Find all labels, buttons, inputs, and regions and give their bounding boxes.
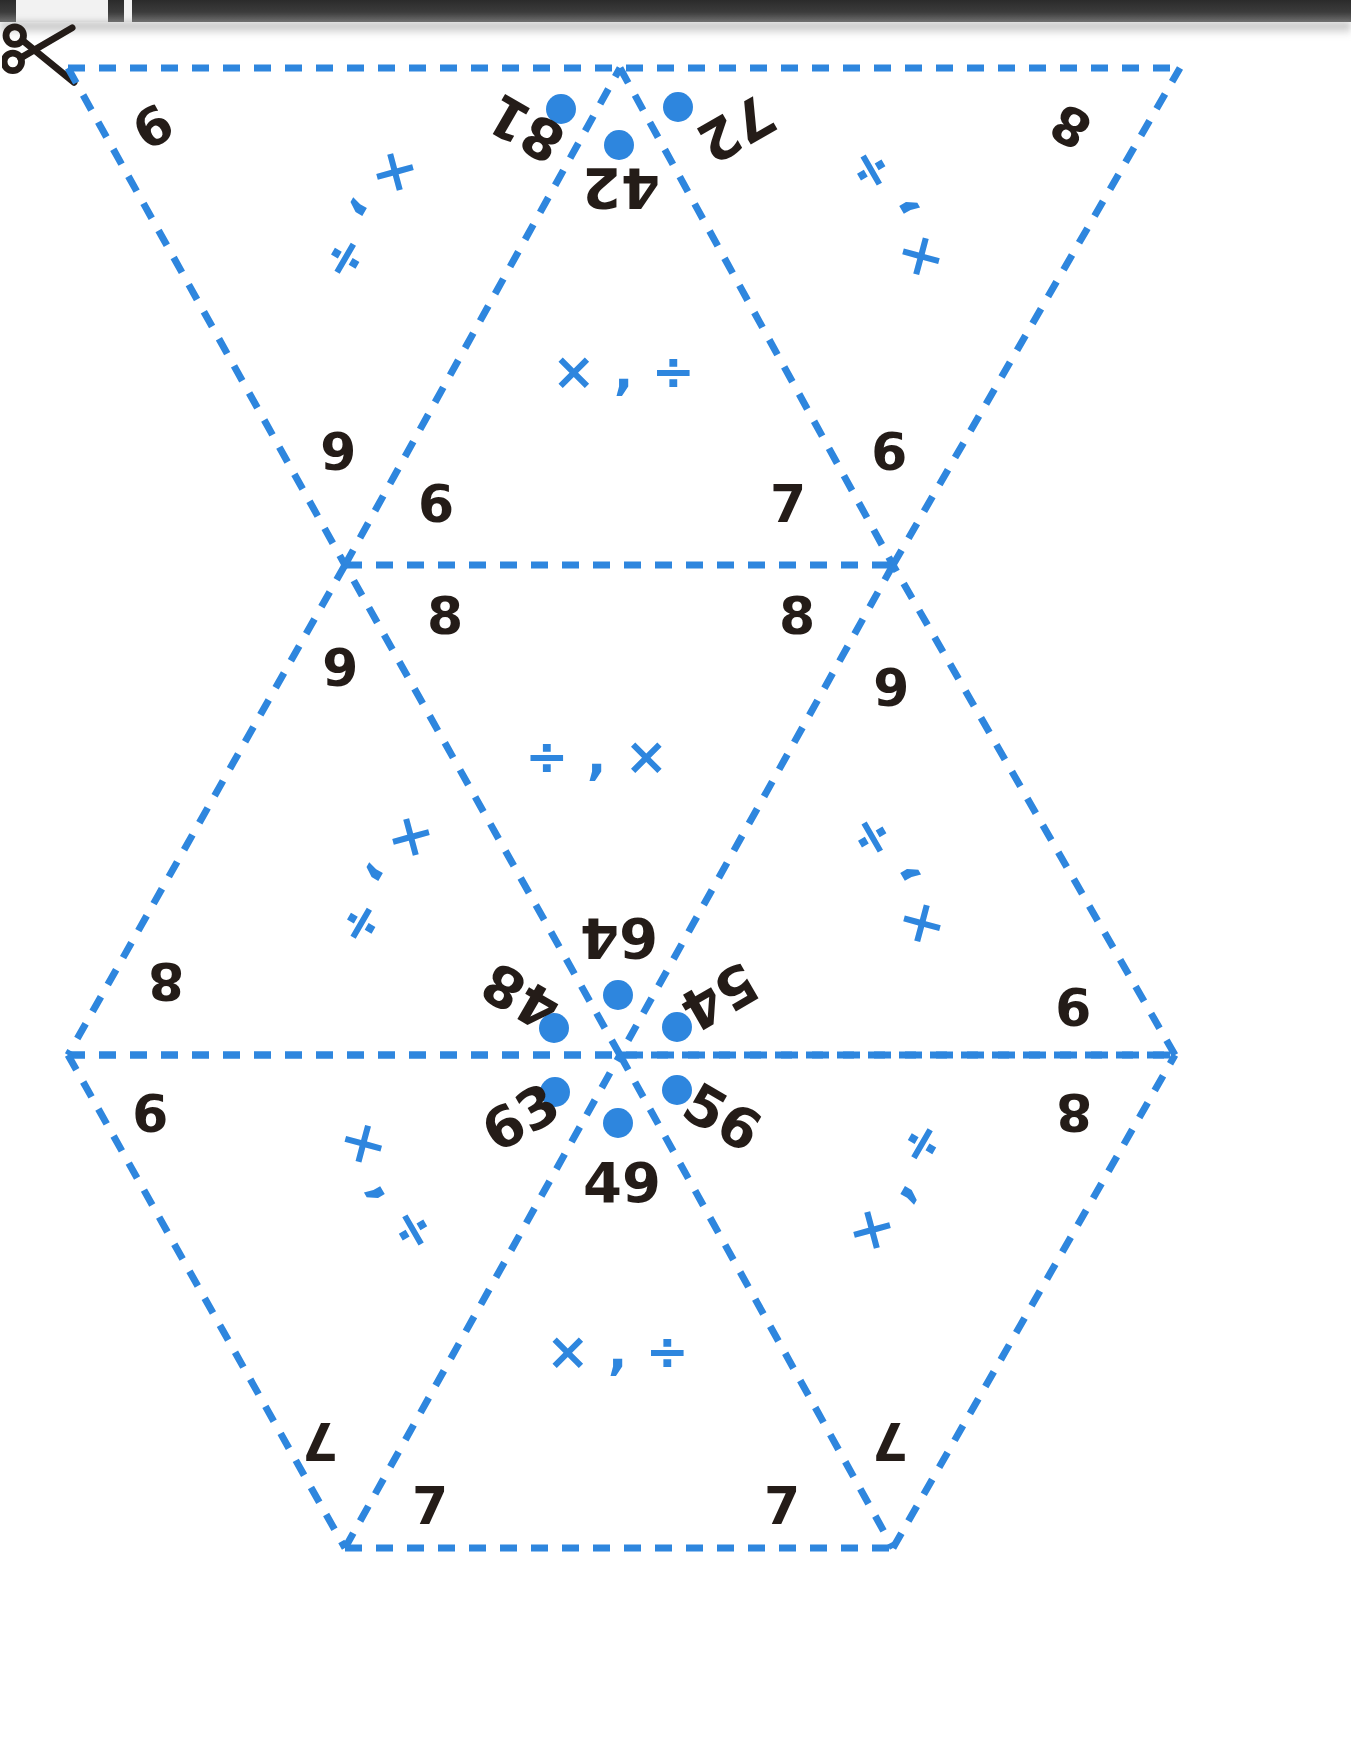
product-64: 64: [580, 910, 658, 966]
corner-number: 6: [322, 640, 358, 692]
operator-pair: × , ÷: [546, 1325, 689, 1377]
corner-number: 6: [418, 478, 454, 530]
product-49: 49: [583, 1155, 661, 1211]
corner-number: 8: [427, 590, 463, 642]
corner-number: 9: [871, 424, 907, 476]
operator-pair: ÷ , ×: [525, 730, 668, 782]
corner-number: 6: [873, 660, 909, 712]
bullet-dot: [603, 980, 633, 1010]
corner-number: 8: [779, 590, 815, 642]
corner-number: 7: [872, 1415, 908, 1467]
corner-number: 7: [412, 1480, 448, 1532]
corner-number: 8: [1056, 1086, 1092, 1138]
corner-number: 7: [302, 1415, 338, 1467]
corner-number: 6: [320, 424, 356, 476]
corner-number: 9: [132, 1086, 168, 1138]
operator-pair: × , ÷: [552, 345, 695, 397]
bullet-dot: [603, 1108, 633, 1138]
flexagon-net: [0, 0, 1351, 1763]
corner-number: 7: [770, 478, 806, 530]
page-canvas: 81 42 72 9 8 × , ÷ × , ÷ × , ÷ 6 6 7 9 8…: [0, 0, 1351, 1763]
corner-number: 8: [148, 955, 184, 1007]
corner-number: 7: [764, 1480, 800, 1532]
product-42: 42: [582, 160, 660, 216]
corner-number: 9: [1055, 980, 1091, 1032]
